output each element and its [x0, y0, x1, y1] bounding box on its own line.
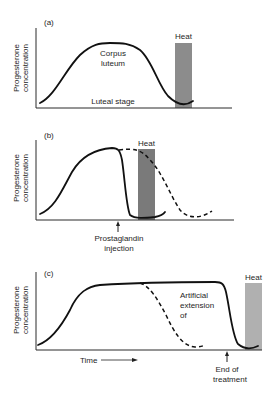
progesterone-diagram: (a) Heat Progesterone concentration Corp…	[0, 0, 274, 393]
annotation-end-of: End of	[215, 365, 239, 374]
panel-a: (a) Heat Progesterone concentration Corp…	[12, 18, 232, 108]
svg-text:Progesterone: Progesterone	[12, 43, 21, 92]
svg-text:Progesterone: Progesterone	[12, 285, 21, 334]
annotation-corpus: Corpus	[100, 49, 126, 58]
annotation-prostaglandin: Prostaglandin	[95, 234, 144, 243]
curve-b-dashed	[119, 149, 212, 217]
panel-b-label: (b)	[44, 131, 54, 140]
ylabel-a: Progesterone concentration	[12, 43, 30, 92]
axes-b	[36, 140, 234, 220]
arrow-head-end-treatment	[225, 351, 229, 356]
heat-bar-a	[175, 43, 192, 108]
svg-text:Progesterone: Progesterone	[12, 153, 21, 202]
heat-label-b: Heat	[138, 139, 156, 148]
heat-label-a: Heat	[175, 32, 193, 41]
annotation-of: of	[180, 311, 187, 320]
svg-text:concentration: concentration	[21, 154, 30, 202]
annotation-treatment: treatment	[213, 375, 248, 384]
curve-c-solid	[38, 282, 258, 348]
heat-bar-b	[138, 149, 155, 220]
svg-text:concentration: concentration	[21, 286, 30, 334]
arrow-head-injection	[116, 221, 120, 226]
panel-c: (c) Heat Progesterone concentration Arti…	[12, 269, 263, 384]
annotation-luteum: luteum	[101, 59, 125, 68]
annotation-extension: extension	[180, 301, 214, 310]
panel-a-label: (a)	[44, 18, 54, 27]
time-arrow-head-icon	[132, 358, 138, 362]
ylabel-b: Progesterone concentration	[12, 153, 30, 202]
panel-c-label: (c)	[44, 269, 54, 278]
annotation-luteal-stage: Luteal stage	[91, 97, 135, 106]
heat-label-c: Heat	[245, 273, 263, 282]
axes-a	[36, 28, 232, 108]
ylabel-c: Progesterone concentration	[12, 285, 30, 334]
svg-text:concentration: concentration	[21, 44, 30, 92]
heat-bar-c	[245, 283, 262, 350]
panel-b: (b) Heat Progesterone concentration Pros…	[12, 131, 234, 253]
xlabel-time: Time	[80, 356, 98, 365]
annotation-artificial: Artificial	[180, 291, 208, 300]
annotation-injection: injection	[104, 244, 133, 253]
